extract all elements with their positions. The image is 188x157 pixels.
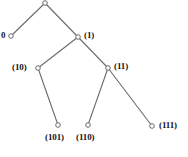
- tree-node-label: (11): [114, 62, 128, 71]
- tree-node-marker: [106, 66, 111, 71]
- edges-group: [11, 3, 152, 126]
- tree-node-label: (110): [76, 133, 95, 142]
- tree-node-label: 0: [1, 31, 5, 40]
- tree-node-label: (111): [159, 121, 177, 130]
- tree-edge: [11, 3, 45, 36]
- tree-node-marker: [150, 124, 155, 129]
- tree-node-marker: [43, 1, 48, 6]
- tree-edge: [88, 68, 108, 125]
- nodes-group: [9, 1, 155, 129]
- binary-tree-figure: 0(1)(10)(11)(101)(110)(111): [0, 0, 188, 157]
- tree-node-label: (10): [12, 63, 27, 72]
- tree-edge: [108, 68, 152, 126]
- tree-node-marker: [76, 35, 81, 40]
- tree-edge: [38, 37, 78, 68]
- tree-node-marker: [9, 34, 14, 39]
- tree-node-label: (101): [45, 133, 64, 142]
- tree-node-marker: [86, 123, 91, 128]
- caption-fragment: [30, 149, 160, 156]
- tree-node-label: (1): [84, 31, 94, 40]
- tree-edge: [38, 68, 58, 125]
- tree-node-marker: [56, 123, 61, 128]
- tree-edge: [78, 37, 108, 68]
- tree-node-marker: [36, 66, 41, 71]
- tree-edge: [45, 3, 78, 37]
